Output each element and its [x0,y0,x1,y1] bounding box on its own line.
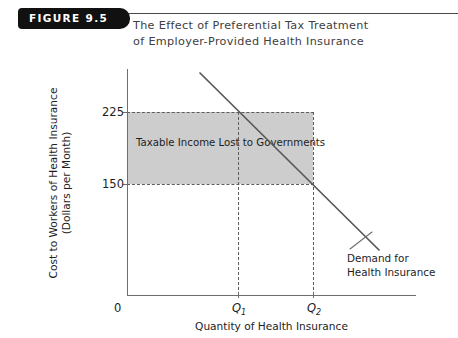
y-tick-label-150: 150 [84,177,124,191]
y-axis-title-line-2: (Dollars per Month) [60,83,73,283]
x-tick-label-q2-sub: 2 [316,308,321,317]
x-tick-label-q1-sub: 1 [241,308,246,317]
y-axis-title-line-1: Cost to Workers of Health Insurance [47,83,60,283]
y-axis-line [127,69,128,296]
x-tick-label-q1-base: Q [232,301,241,315]
plot-area: Taxable Income Lost to Governments 225 1… [0,0,458,338]
demand-curve-label-line-2: Health Insurance [347,266,435,280]
y-tick-label-225: 225 [84,105,124,119]
y-axis-title: Cost to Workers of Health Insurance (Dol… [47,83,73,283]
origin-label: 0 [114,301,121,315]
x-tick-mark-q2 [313,293,314,298]
x-tick-label-q2: Q2 [307,301,321,317]
x-tick-label-q1: Q1 [232,301,246,317]
x-tick-label-q2-base: Q [307,301,316,315]
figure-container: FIGURE 9.5 The Effect of Preferential Ta… [0,0,458,338]
x-axis-line [127,295,416,296]
demand-curve-label: Demand for Health Insurance [347,252,435,279]
demand-curve-label-line-1: Demand for [347,252,435,266]
x-tick-mark-q1 [238,293,239,298]
x-axis-title: Quantity of Health Insurance [127,320,416,332]
